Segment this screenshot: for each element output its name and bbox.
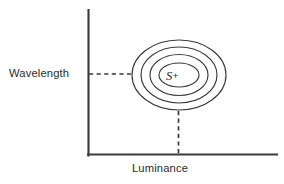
center-point-superscript: + (173, 70, 179, 81)
contour-ellipse-1 (159, 63, 199, 87)
contour-ellipse-3 (141, 47, 217, 103)
center-point-symbol: S (166, 69, 172, 83)
contour-ellipse-4 (132, 40, 226, 110)
figure-container: Wavelength Luminance S+ (0, 0, 284, 184)
center-point-label: S+ (166, 67, 178, 83)
y-axis-label: Wavelength (9, 68, 69, 79)
figure-canvas (0, 0, 284, 184)
x-axis-label: Luminance (132, 163, 188, 174)
